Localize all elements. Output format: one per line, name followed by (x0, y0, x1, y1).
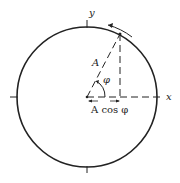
reference-circle-diagram: y x A φ A cos φ (0, 0, 180, 183)
amplitude-label: A (91, 57, 99, 68)
angle-arrowhead-icon (96, 80, 99, 84)
dim-arrowhead-left-icon (88, 100, 92, 103)
rotation-arrowhead-icon (108, 23, 113, 28)
origin-point (86, 96, 89, 99)
projection-label: A cos φ (90, 104, 128, 115)
dim-arrowhead-right-icon (116, 100, 120, 103)
y-axis-label: y (88, 7, 95, 18)
angle-label: φ (103, 74, 110, 85)
x-axis-label: x (166, 91, 172, 102)
